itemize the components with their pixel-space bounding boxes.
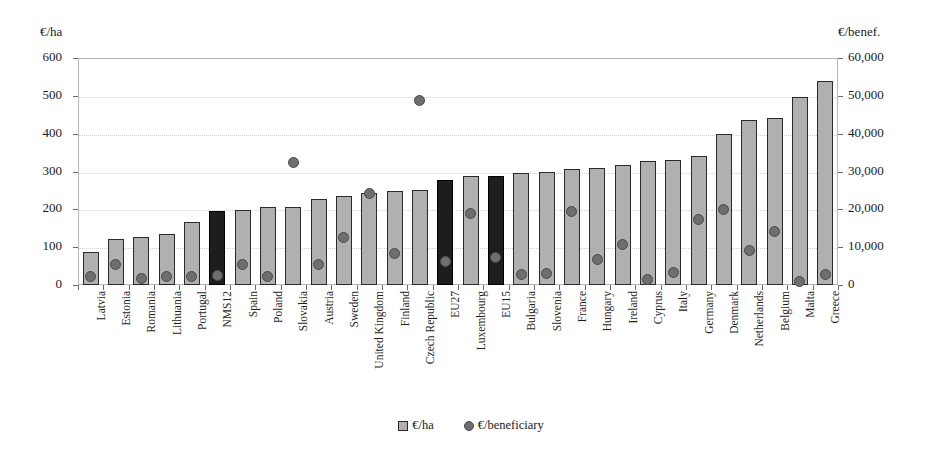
x-axis-tickmark <box>382 285 383 290</box>
legend-label-eur-per-beneficiary: €/beneficiary <box>478 418 544 433</box>
data-point[interactable] <box>414 95 425 106</box>
x-axis-tickmark <box>281 285 282 290</box>
x-axis-tickmark <box>661 285 662 290</box>
x-axis-tickmark <box>737 285 738 290</box>
bar-group <box>488 58 504 285</box>
bar[interactable] <box>792 97 808 285</box>
category-label: Belgium <box>780 291 792 331</box>
category-label: Ireland <box>628 291 640 324</box>
bar-group <box>209 58 225 285</box>
bar-group <box>412 58 428 285</box>
category-label: EU15 <box>501 291 513 318</box>
category-label: Austria <box>324 291 336 325</box>
category-label: Poland <box>273 291 285 323</box>
category-label: Sweden <box>349 291 361 327</box>
x-axis-tickmark <box>635 285 636 290</box>
x-axis-tickmark <box>458 285 459 290</box>
bar[interactable] <box>640 161 656 285</box>
left-axis-tick-label: 500 <box>2 88 62 101</box>
bar[interactable] <box>589 168 605 285</box>
bar-group <box>260 58 276 285</box>
bar-group <box>665 58 681 285</box>
x-axis-tickmark <box>129 285 130 290</box>
category-label: Lithuania <box>172 291 184 335</box>
x-axis-tickmark <box>331 285 332 290</box>
data-point[interactable] <box>313 259 324 270</box>
left-axis-tick-label: 400 <box>2 126 62 139</box>
right-axis-tick-label: 60,000 <box>848 50 918 63</box>
data-point[interactable] <box>820 269 831 280</box>
left-axis-title: €/ha <box>40 24 62 40</box>
data-point[interactable] <box>237 259 248 270</box>
bar-group <box>513 58 529 285</box>
right-axis-title: €/benef. <box>838 24 880 40</box>
category-label: Netherlands <box>754 291 766 347</box>
bar-group <box>691 58 707 285</box>
data-point[interactable] <box>212 270 223 281</box>
x-axis-tickmark <box>787 285 788 290</box>
left-axis-tick-label: 300 <box>2 164 62 177</box>
right-axis-tick-label: 20,000 <box>848 201 918 214</box>
data-point[interactable] <box>161 271 172 282</box>
bar[interactable] <box>463 176 479 285</box>
bar[interactable] <box>361 193 377 285</box>
bar-group <box>184 58 200 285</box>
bar-group <box>159 58 175 285</box>
left-axis-tick-label: 200 <box>2 201 62 214</box>
category-label: Spain <box>248 291 260 317</box>
bar-group <box>615 58 631 285</box>
bar[interactable] <box>387 191 403 285</box>
bar[interactable] <box>741 120 757 285</box>
data-point[interactable] <box>516 269 527 280</box>
x-axis-tickmark <box>357 285 358 290</box>
data-point[interactable] <box>592 254 603 265</box>
category-label: Slovakia <box>298 291 310 331</box>
bar-group <box>539 58 555 285</box>
left-axis-tick-label: 100 <box>2 239 62 252</box>
bar[interactable] <box>437 180 453 285</box>
bar[interactable] <box>564 169 580 285</box>
data-point[interactable] <box>389 248 400 259</box>
bar[interactable] <box>412 190 428 285</box>
right-axis-tick-label: 40,000 <box>848 126 918 139</box>
bar[interactable] <box>615 165 631 285</box>
legend-item-eur-per-ha: €/ha <box>398 418 434 433</box>
bar-group <box>133 58 149 285</box>
category-label: Italy <box>678 291 690 312</box>
bar-group <box>463 58 479 285</box>
category-label: France <box>577 291 589 322</box>
bar-group <box>716 58 732 285</box>
x-axis-tickmark <box>534 285 535 290</box>
category-label: Denmark <box>729 291 741 334</box>
bar[interactable] <box>285 207 301 285</box>
right-axis-tickmark <box>838 247 843 248</box>
x-axis-tickmark <box>711 285 712 290</box>
right-axis-tickmark <box>838 58 843 59</box>
x-axis-tickmark <box>433 285 434 290</box>
bar[interactable] <box>817 81 833 285</box>
data-point[interactable] <box>288 157 299 168</box>
x-axis-tickmark <box>585 285 586 290</box>
left-axis-tick-label: 0 <box>2 277 62 290</box>
category-label: Germany <box>704 291 716 334</box>
category-label: Finland <box>400 291 412 326</box>
bar-group <box>792 58 808 285</box>
bars-and-points-layer <box>78 58 838 285</box>
bar-group <box>336 58 352 285</box>
x-axis-tickmark <box>306 285 307 290</box>
bar[interactable] <box>311 199 327 285</box>
x-axis-tickmark <box>255 285 256 290</box>
x-axis-tickmark <box>230 285 231 290</box>
bar[interactable] <box>665 160 681 285</box>
x-axis-category-labels: LatviaEstoniaRomaniaLithuaniaPortugalNMS… <box>78 291 838 391</box>
category-label: Latvia <box>96 291 108 320</box>
x-axis-tickmark <box>838 285 839 290</box>
right-axis-tickmark <box>838 134 843 135</box>
category-label: Bulgaria <box>526 291 538 331</box>
data-point[interactable] <box>364 188 375 199</box>
bar-group <box>589 58 605 285</box>
bar[interactable] <box>235 210 251 285</box>
bar[interactable] <box>767 118 783 285</box>
bar-group <box>285 58 301 285</box>
bar[interactable] <box>488 176 504 285</box>
